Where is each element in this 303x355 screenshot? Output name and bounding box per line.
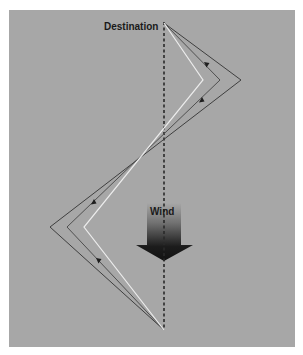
outer-tack-path (50, 23, 241, 330)
destination-label: Destination (104, 21, 158, 32)
middle-tack-path (67, 23, 220, 330)
tacking-diagram (0, 0, 303, 355)
inner-tack-path (84, 23, 203, 330)
wind-label: Wind (150, 206, 174, 217)
